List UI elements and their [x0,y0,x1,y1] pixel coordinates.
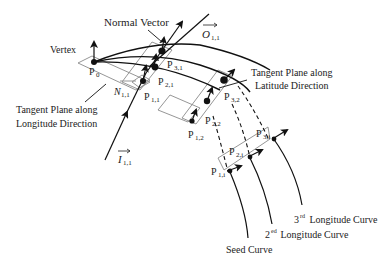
point-p0 [91,59,97,65]
label-tangent-longitude-2: Longitude Direction [16,118,97,129]
svg-text:P: P [167,59,173,70]
svg-text:1,1: 1,1 [123,159,132,167]
label-out-vector: O 1,1 [202,23,220,42]
svg-text:P: P [144,91,150,102]
label-normal-vector: Normal Vector [104,16,169,28]
point-p11 [140,78,146,84]
point-p22 [204,98,210,104]
label-seed-curve: Seed Curve [226,244,273,255]
point-p12 [189,118,194,123]
svg-text:2,i: 2,i [236,151,243,159]
svg-text:1,i: 1,i [218,171,225,179]
label-tangent-latitude-1: Tangent Plane along [251,67,333,78]
leader-normal-vector [148,30,162,42]
point-label-p12: P1,2 [188,129,204,142]
svg-text:P: P [205,115,211,126]
labels: Normal Vector Vertex O 1,1 I 1,1 N 1,1 T… [16,16,378,255]
point-p21 [152,64,159,71]
diagram-svg: Normal Vector Vertex O 1,1 I 1,1 N 1,1 T… [0,0,390,267]
label-tangent-longitude-1: Tangent Plane along [16,104,98,115]
svg-text:Longitude Curve: Longitude Curve [307,214,378,225]
svg-text:1,1: 1,1 [121,91,130,99]
svg-text:1,1: 1,1 [211,34,220,42]
point-label-p0: P0 [89,66,100,79]
svg-text:3,i: 3,i [263,133,270,141]
seed-curve [230,172,248,238]
svg-text:1,2: 1,2 [195,134,204,142]
label-second-curve: 2 ed Longitude Curve [265,228,349,240]
svg-text:2,2: 2,2 [212,120,221,128]
svg-text:P: P [89,66,95,77]
svg-text:0: 0 [96,71,100,79]
label-n11: N 1,1 [113,86,130,99]
second-longitude-curve [250,158,272,224]
svg-text:1,1: 1,1 [151,96,160,104]
svg-text:3,2: 3,2 [231,96,240,104]
leader-lines [85,30,247,102]
third-longitude-curve [273,138,302,205]
normal-arrow-p3i [274,130,287,138]
svg-text:3: 3 [294,214,299,225]
svg-text:ed: ed [271,228,277,234]
svg-text:2,1: 2,1 [165,81,174,89]
svg-text:P: P [224,91,230,102]
label-tangent-latitude-2: Latitude Direction [255,80,329,91]
svg-text:P: P [229,146,235,157]
svg-text:Longitude Curve: Longitude Curve [278,229,349,240]
label-in-vector: I 1,1 [117,149,132,167]
point-label-p21: P2,1 [158,76,174,89]
point-label-p32: P3,2 [224,91,240,104]
point-p1i [228,169,233,174]
svg-text:P: P [158,76,164,87]
dashed-second [232,104,250,158]
leader-longitude-plane [85,84,106,102]
point-label-p2i: P2,i [229,146,243,159]
label-third-curve: 3 rd Longitude Curve [294,213,378,225]
point-p3i [272,137,277,142]
svg-text:P: P [211,166,217,177]
point-label-p11: P1,1 [144,91,160,104]
svg-text:P: P [256,128,262,139]
svg-text:P: P [188,129,194,140]
svg-text:3,1: 3,1 [174,64,183,72]
svg-text:2: 2 [265,229,270,240]
in-ray [105,112,127,160]
point-p31 [158,47,165,54]
point-p2i [248,155,253,160]
label-vertex: Vertex [50,44,76,55]
point-p32 [220,76,228,84]
svg-text:O: O [202,28,210,40]
diagram-canvas: Normal Vector Vertex O 1,1 I 1,1 N 1,1 T… [0,0,390,267]
svg-text:rd: rd [300,213,305,219]
